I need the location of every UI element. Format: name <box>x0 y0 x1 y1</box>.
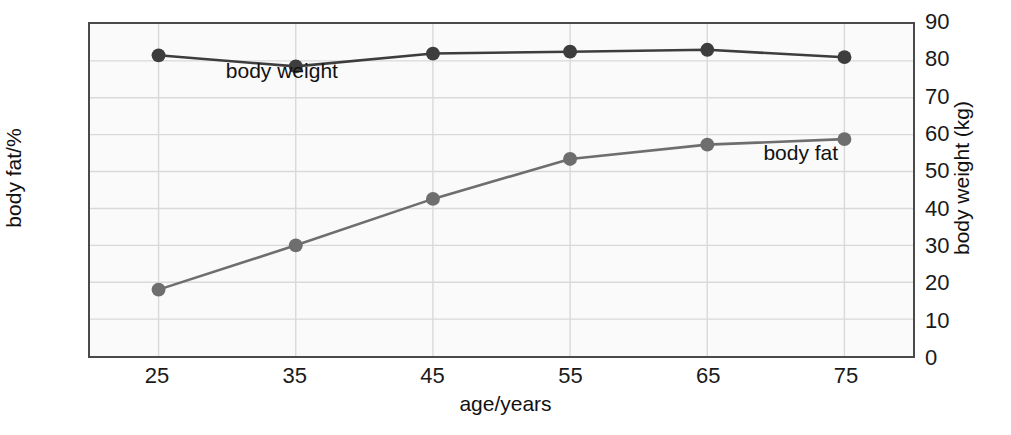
data-point-body-fat <box>152 283 166 297</box>
series-label-body-fat: body fat <box>763 141 838 165</box>
data-point-body-weight <box>563 45 577 59</box>
y-axis-right-tick-label: 0 <box>925 345 985 371</box>
data-series-layer <box>90 24 913 356</box>
y-axis-right-tick-label: 10 <box>925 308 985 334</box>
data-point-body-fat <box>837 132 851 146</box>
series-label-body-weight: body weight <box>226 59 338 83</box>
series-line-body-fat <box>159 139 845 289</box>
data-point-body-weight <box>837 50 851 64</box>
y-axis-right-tick-label: 90 <box>925 9 985 35</box>
data-point-body-fat <box>563 152 577 166</box>
x-axis-tick-label: 35 <box>255 363 335 389</box>
x-axis-tick-label: 25 <box>117 363 197 389</box>
x-axis-tick-label: 45 <box>393 363 473 389</box>
data-point-body-fat <box>289 238 303 252</box>
data-point-body-fat <box>426 192 440 206</box>
data-point-body-weight <box>152 48 166 62</box>
plot-area <box>88 22 915 358</box>
x-axis-tick-label: 55 <box>530 363 610 389</box>
x-axis-tick-label: 65 <box>668 363 748 389</box>
data-point-body-weight <box>700 43 714 57</box>
y-axis-left-title: body fat/% <box>2 68 26 288</box>
data-point-body-fat <box>700 138 714 152</box>
y-axis-right-title: body weight (kg) <box>950 68 974 288</box>
chart-container: 10203040 0102030405060708090 25354555657… <box>0 0 1011 435</box>
x-axis-tick-label: 75 <box>806 363 886 389</box>
x-axis-title: age/years <box>0 392 1011 416</box>
data-point-body-weight <box>426 47 440 61</box>
